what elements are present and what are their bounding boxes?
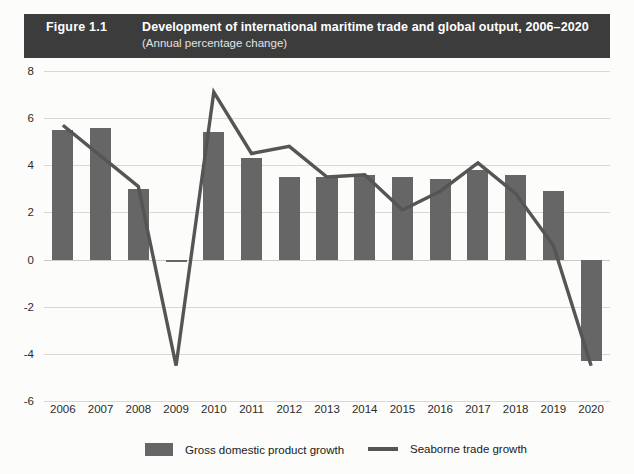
y-axis-tick--6: -6 (24, 395, 34, 407)
x-axis-tick-2012: 2012 (276, 403, 302, 415)
x-axis-tick-2007: 2007 (88, 403, 114, 415)
legend-item-gdp-growth: Gross domestic product growth (145, 443, 344, 456)
legend-label-seaborne-trade-growth: Seaborne trade growth (410, 443, 527, 455)
legend-label-gdp-growth: Gross domestic product growth (185, 444, 344, 456)
y-axis-tick-0: 0 (28, 254, 34, 266)
y-axis-tick-8: 8 (28, 65, 34, 77)
legend-item-seaborne-trade-growth: Seaborne trade growth (368, 443, 527, 455)
y-axis-tick--2: -2 (24, 301, 34, 313)
x-axis-tick-2014: 2014 (352, 403, 378, 415)
x-axis-tick-2006: 2006 (50, 403, 76, 415)
figure-subtitle: (Annual percentage change) (142, 37, 287, 49)
figure-title: Development of international maritime tr… (142, 20, 589, 34)
y-axis-tick-2: 2 (28, 206, 34, 218)
x-axis-labels: 2006200720082009201020112012201320142015… (44, 403, 610, 423)
chart-legend: Gross domestic product growth Seaborne t… (0, 443, 634, 465)
figure-header-bar: Figure 1.1 Development of international … (24, 14, 610, 58)
x-axis-tick-2016: 2016 (427, 403, 453, 415)
x-axis-tick-2013: 2013 (314, 403, 340, 415)
x-axis-tick-2009: 2009 (163, 403, 189, 415)
gridline--6 (44, 401, 610, 402)
y-axis-tick-6: 6 (28, 112, 34, 124)
x-axis-tick-2015: 2015 (390, 403, 416, 415)
legend-bar-swatch-icon (145, 443, 173, 456)
x-axis-tick-2017: 2017 (465, 403, 491, 415)
seaborne-trade-growth-polyline (63, 92, 591, 365)
line-series-seaborne-trade-growth (44, 71, 610, 401)
x-axis-tick-2011: 2011 (239, 403, 264, 415)
x-axis-tick-2019: 2019 (541, 403, 567, 415)
plot-area (44, 71, 610, 401)
x-axis-tick-2018: 2018 (503, 403, 529, 415)
x-axis-tick-2020: 2020 (578, 403, 604, 415)
figure-number: Figure 1.1 (46, 20, 107, 34)
x-axis-tick-2010: 2010 (201, 403, 227, 415)
y-axis-labels: 86420-2-4-6 (0, 71, 40, 401)
figure-root: Figure 1.1 Development of international … (0, 0, 634, 474)
y-axis-tick-4: 4 (28, 159, 34, 171)
y-axis-tick--4: -4 (24, 348, 34, 360)
x-axis-tick-2008: 2008 (126, 403, 152, 415)
legend-line-swatch-icon (368, 447, 398, 451)
seaborne-trade-growth-line (44, 71, 610, 401)
